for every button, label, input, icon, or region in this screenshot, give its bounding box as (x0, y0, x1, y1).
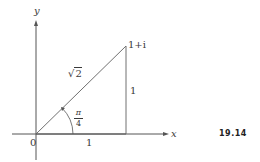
radicand: 2 (74, 67, 81, 79)
base-length-label: 1 (86, 138, 92, 148)
y-axis-label: y (34, 6, 40, 16)
hypotenuse-length-label: √2 (68, 69, 82, 79)
x-axis-arrow-icon (163, 132, 169, 136)
y-axis-arrow-icon (34, 20, 38, 26)
angle-denominator: 4 (74, 120, 83, 128)
x-axis-label: x (171, 129, 177, 139)
angle-label: π 4 (74, 109, 83, 128)
angle-numerator: π (74, 109, 83, 117)
height-length-label: 1 (130, 86, 136, 96)
origin-label: 0 (30, 138, 36, 148)
figure-number: 19.14 (219, 129, 247, 138)
angle-arc (62, 108, 73, 134)
point-label: 1+i (128, 40, 146, 50)
